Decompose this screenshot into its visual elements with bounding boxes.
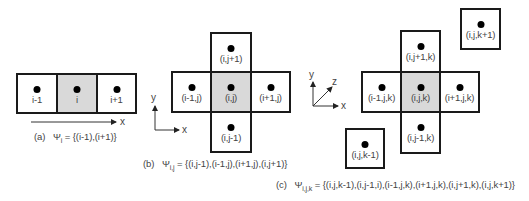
caption-tag: (c)	[276, 179, 287, 190]
cell-label: (i,j,k+1)	[462, 29, 499, 40]
cell-label: (i-1,j,k)	[363, 92, 400, 103]
caption-a: (a) Ψi = {(i-1),(i+1)}	[34, 131, 117, 144]
cell-i-j-plus-1: (i,j+1)	[210, 32, 252, 73]
node-dot	[228, 84, 235, 91]
node-dot	[417, 43, 424, 50]
node-dot	[477, 21, 484, 28]
neighbor-set: = {(i-1),(i+1)}	[65, 131, 117, 142]
caption-tag: (a)	[34, 131, 45, 142]
cell-label: (i+1,j)	[252, 92, 289, 103]
cell-i-j-minus-1-k: (i,j-1,k)	[400, 111, 441, 154]
psi-symbol: Ψ	[162, 158, 170, 169]
node-dot	[188, 84, 195, 91]
node-dot	[228, 124, 235, 131]
cell-label: (i,j-1,k)	[402, 132, 439, 143]
cell-i-j-k-minus-1: (i,j,k-1)	[345, 128, 385, 169]
node-dot	[378, 84, 385, 91]
x-axis-label-b: x	[182, 124, 187, 135]
psi-subscript: i,j	[170, 164, 175, 171]
cell-i-plus-1-j-k: (i+1,j,k)	[439, 71, 480, 113]
cell-i-j-k-center: (i,j,k)	[400, 71, 441, 113]
cell-i-j-minus-1: (i,j-1)	[210, 111, 252, 153]
node-dot	[228, 45, 235, 52]
cell-i-j-plus-1-k: (i,j+1,k)	[400, 30, 441, 73]
cell-i-minus-1-j: (i-1,j)	[171, 71, 212, 113]
x-axis-label-a: x	[120, 116, 125, 127]
caption-tag: (b)	[143, 158, 154, 169]
caption-b: (b) Ψi,j = {(i,j-1),(i-1,j),(i+1,j),(i,j…	[143, 158, 287, 171]
cell-label: (i,j+1,k)	[402, 51, 439, 62]
node-dot	[34, 86, 41, 93]
cell-i-minus-1: i-1	[16, 73, 58, 114]
cell-label: (i,j)	[212, 92, 250, 103]
z-axis-arrow-c	[313, 87, 332, 106]
cell-label: i-1	[18, 94, 56, 105]
cell-i-plus-1: i+1	[96, 73, 137, 114]
cell-i-j-center: (i,j)	[210, 71, 252, 113]
psi-subscript: i,j,k	[302, 185, 312, 192]
node-dot	[417, 124, 424, 131]
cell-label: i	[58, 94, 96, 105]
cell-label: (i-1,j)	[173, 92, 210, 103]
node-dot	[267, 84, 274, 91]
neighbor-set: = {(i,j,k-1),(i,j-1,i),(i-1,j,k),(i+1,j,…	[315, 179, 515, 190]
cell-i-plus-1-j: (i+1,j)	[250, 71, 291, 113]
node-dot	[417, 84, 424, 91]
psi-symbol: Ψ	[53, 131, 61, 142]
y-axis-label-b: y	[151, 92, 156, 103]
cell-i-minus-1-j-k: (i-1,j,k)	[361, 71, 402, 113]
cell-label: (i,j+1)	[212, 53, 250, 64]
z-axis-label-c: z	[332, 76, 337, 87]
cell-i-j-k-plus-1: (i,j,k+1)	[460, 8, 501, 50]
cell-label: (i,j,k-1)	[347, 149, 383, 160]
cell-label: (i,j,k)	[402, 92, 439, 103]
node-dot	[113, 86, 120, 93]
neighbor-set: = {(i,j-1),(i-1,j),(i+1,j),(i,j+1)}	[177, 158, 287, 169]
y-axis-label-c: y	[309, 69, 314, 80]
node-dot	[362, 141, 369, 148]
psi-subscript: i	[61, 137, 62, 144]
cell-label: (i,j-1)	[212, 132, 250, 143]
node-dot	[74, 86, 81, 93]
node-dot	[456, 84, 463, 91]
cell-i-center: i	[56, 73, 98, 114]
caption-c: (c) Ψi,j,k = {(i,j,k-1),(i,j-1,i),(i-1,j…	[276, 179, 515, 192]
x-axis-label-c: x	[341, 100, 346, 111]
cell-label: i+1	[98, 94, 135, 105]
cell-label: (i+1,j,k)	[441, 92, 478, 103]
